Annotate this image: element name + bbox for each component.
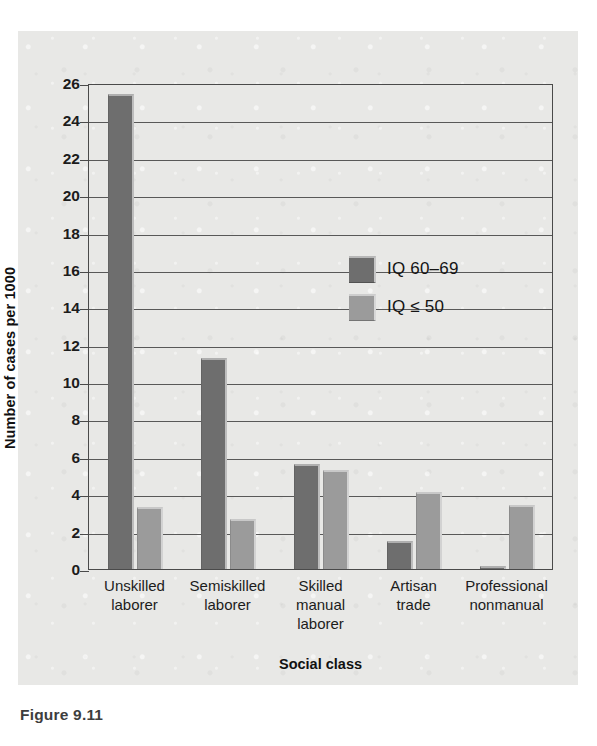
y-tick-label: 14 xyxy=(63,299,80,317)
y-tick xyxy=(80,85,89,86)
x-category-line: Semiskilled xyxy=(181,576,274,595)
bar-1-3 xyxy=(416,492,442,569)
x-category-label-3: Artisantrade xyxy=(367,576,460,614)
bar-0-0 xyxy=(108,94,134,569)
figure-caption: Figure 9.11 xyxy=(20,706,103,724)
legend: IQ 60–69 IQ ≤ 50 xyxy=(349,250,459,326)
bar-1-1 xyxy=(230,519,256,569)
x-axis-title: Social class xyxy=(88,656,553,672)
y-axis-title: Number of cases per 1000 xyxy=(2,267,18,449)
legend-label-1: IQ ≤ 50 xyxy=(387,297,444,317)
x-category-line: Skilled xyxy=(274,576,367,595)
y-tick xyxy=(80,160,89,161)
x-category-line: Professional xyxy=(460,576,553,595)
y-tick xyxy=(80,384,89,385)
y-tick xyxy=(80,421,89,422)
figure-panel: Number of cases per 1000 024681012141618… xyxy=(18,31,578,685)
gridline xyxy=(89,309,552,310)
legend-label-0: IQ 60–69 xyxy=(387,259,459,279)
y-tick-label: 24 xyxy=(63,112,80,130)
bar-0-3 xyxy=(387,541,413,569)
y-tick-label: 4 xyxy=(71,486,80,504)
y-tick-label: 10 xyxy=(63,374,80,392)
bar-0-4 xyxy=(480,566,506,569)
y-tick xyxy=(80,459,89,460)
x-category-label-4: Professionalnonmanual xyxy=(460,576,553,614)
plot-area: IQ 60–69 IQ ≤ 50 xyxy=(88,84,553,570)
x-category-line: trade xyxy=(367,595,460,614)
bar-1-2 xyxy=(323,470,349,569)
x-category-line: laborer xyxy=(274,614,367,633)
y-tick-label: 16 xyxy=(63,262,80,280)
y-tick xyxy=(80,309,89,310)
gridline xyxy=(89,347,552,348)
x-category-label-0: Unskilledlaborer xyxy=(88,576,181,614)
bar-1-0 xyxy=(137,507,163,569)
gridline xyxy=(89,459,552,460)
x-category-line: Unskilled xyxy=(88,576,181,595)
x-category-label-1: Semiskilledlaborer xyxy=(181,576,274,614)
y-tick xyxy=(80,235,89,236)
gridline xyxy=(89,160,552,161)
bar-0-2 xyxy=(294,464,320,569)
y-tick xyxy=(80,197,89,198)
y-tick-label: 26 xyxy=(63,75,80,93)
bar-1-4 xyxy=(509,505,535,569)
legend-item-0[interactable]: IQ 60–69 xyxy=(349,250,459,288)
y-tick xyxy=(80,534,89,535)
gridline xyxy=(89,122,552,123)
x-category-line: manual xyxy=(274,595,367,614)
gridline xyxy=(89,496,552,497)
legend-swatch-dark-icon xyxy=(349,256,376,283)
y-axis-tick-labels: 02468101214161820222426 xyxy=(18,31,84,685)
x-axis-category-labels: UnskilledlaborerSemiskilledlaborerSkille… xyxy=(88,576,553,654)
y-tick-label: 0 xyxy=(71,561,80,579)
legend-swatch-light-icon xyxy=(349,294,376,321)
y-tick-label: 2 xyxy=(71,524,80,542)
y-tick-label: 18 xyxy=(63,225,80,243)
bar-chart: Number of cases per 1000 024681012141618… xyxy=(18,31,578,685)
gridline xyxy=(89,197,552,198)
y-tick-label: 8 xyxy=(71,411,80,429)
y-tick-label: 6 xyxy=(71,449,80,467)
y-tick-label: 20 xyxy=(63,187,80,205)
gridline xyxy=(89,384,552,385)
y-tick xyxy=(80,347,89,348)
gridline xyxy=(89,421,552,422)
y-tick xyxy=(80,571,89,572)
y-tick xyxy=(80,272,89,273)
x-category-line: nonmanual xyxy=(460,595,553,614)
x-category-label-2: Skilledmanuallaborer xyxy=(274,576,367,633)
y-tick-label: 22 xyxy=(63,150,80,168)
x-category-line: laborer xyxy=(181,595,274,614)
x-category-line: laborer xyxy=(88,595,181,614)
y-tick xyxy=(80,122,89,123)
y-tick-label: 12 xyxy=(63,337,80,355)
gridline xyxy=(89,235,552,236)
legend-item-1[interactable]: IQ ≤ 50 xyxy=(349,288,459,326)
x-category-line: Artisan xyxy=(367,576,460,595)
gridline xyxy=(89,272,552,273)
y-tick xyxy=(80,496,89,497)
bar-0-1 xyxy=(201,358,227,569)
